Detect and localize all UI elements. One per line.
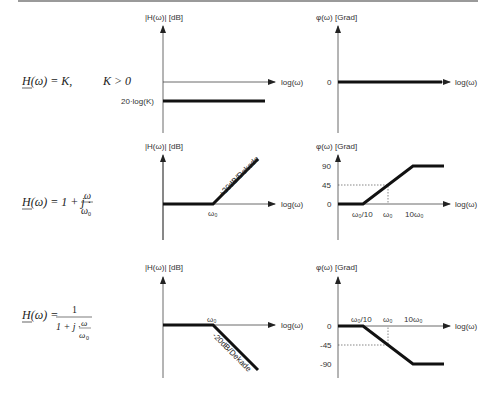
formula-2-num: ω (84, 190, 91, 201)
row-3-magnitude-plot: |H(ω)| [dB] log(ω) ω₀ -20dB/Dekade (145, 263, 304, 378)
level-label: 20·log(K) (121, 97, 154, 106)
slope-label: +20dB/Dekade (217, 154, 261, 198)
phase-axis-label: φ(ω) [Grad] (316, 142, 357, 151)
formula-3-den-pre: 1 + j · (56, 321, 81, 332)
x-label-w0-10: ω₀/10 (352, 210, 373, 219)
formula-3-lhs: H(ω) = (21, 308, 58, 322)
formula-3-den-frac-sub: 0 (86, 335, 89, 341)
formula-1-rhs: K > 0 (102, 74, 131, 88)
tick-minus-90: -90 (320, 360, 332, 369)
tick-0: 0 (327, 200, 332, 209)
magnitude-axis-label: |H(ω)| [dB] (145, 142, 183, 151)
formula-3-den-frac-den: ω (79, 330, 85, 340)
tick-90: 90 (322, 162, 331, 171)
row-3-phase-plot: φ(ω) [Grad] log(ω) 0 -45 -90 ω₀/10 ω₀ 10… (316, 263, 478, 378)
x-axis-label: log(ω) (455, 78, 478, 87)
row-2-magnitude-plot: |H(ω)| [dB] log(ω) ω₀ +20dB/Dekade (145, 142, 304, 240)
row-2-formula: H(ω) = 1 + j · ω ω 0 (21, 190, 93, 217)
guide-minus-45 (338, 326, 388, 345)
x-label-10w0: 10ω₀ (405, 210, 423, 219)
x-axis-label: log(ω) (281, 78, 304, 87)
slope-label: -20dB/Dekade (211, 331, 254, 374)
formula-2-den: ω (81, 205, 88, 216)
phase-axis-label: φ(ω) [Grad] (316, 13, 357, 22)
formula-3-num: 1 (72, 304, 77, 315)
x-axis-label: log(ω) (455, 322, 478, 331)
row-3-formula: H(ω) = 1 1 + j · ω ω 0 (21, 304, 92, 341)
phase-axis-label: φ(ω) [Grad] (316, 263, 357, 272)
magnitude-axis-label: |H(ω)| [dB] (145, 13, 183, 22)
formula-1-lhs: H(ω) = K, (21, 74, 72, 88)
row-1-formula: H(ω) = K, K > 0 (21, 74, 131, 88)
row-1-phase-plot: φ(ω) [Grad] log(ω) 0 (316, 13, 478, 133)
tick-45: 45 (322, 181, 331, 190)
tick-0: 0 (327, 78, 332, 87)
x-label-w0: ω₀ (383, 315, 393, 324)
break-frequency-label: ω₀ (208, 209, 218, 218)
tick-minus-45: -45 (320, 341, 332, 350)
x-axis-label: log(ω) (281, 200, 304, 209)
x-label-w0-10: ω₀/10 (351, 315, 372, 324)
guide-45 (338, 185, 388, 204)
formula-2-den-sub: 0 (88, 211, 91, 217)
magnitude-axis-label: |H(ω)| [dB] (145, 263, 183, 272)
x-label-10w0: 10ω₀ (404, 315, 422, 324)
x-axis-label: log(ω) (281, 321, 304, 330)
tick-0: 0 (327, 322, 332, 331)
x-axis-label: log(ω) (455, 200, 478, 209)
break-frequency-label: ω₀ (207, 315, 217, 324)
row-1-magnitude-plot: |H(ω)| [dB] log(ω) 20·log(K) (121, 13, 304, 133)
x-label-w0: ω₀ (383, 210, 393, 219)
bode-diagram: H(ω) = K, K > 0 |H(ω)| [dB] log(ω) 20·lo… (0, 0, 494, 394)
row-2-phase-plot: φ(ω) [Grad] log(ω) 90 45 0 ω₀/10 ω₀ 10ω₀ (316, 142, 478, 240)
formula-3-den-frac-num: ω (81, 318, 87, 328)
